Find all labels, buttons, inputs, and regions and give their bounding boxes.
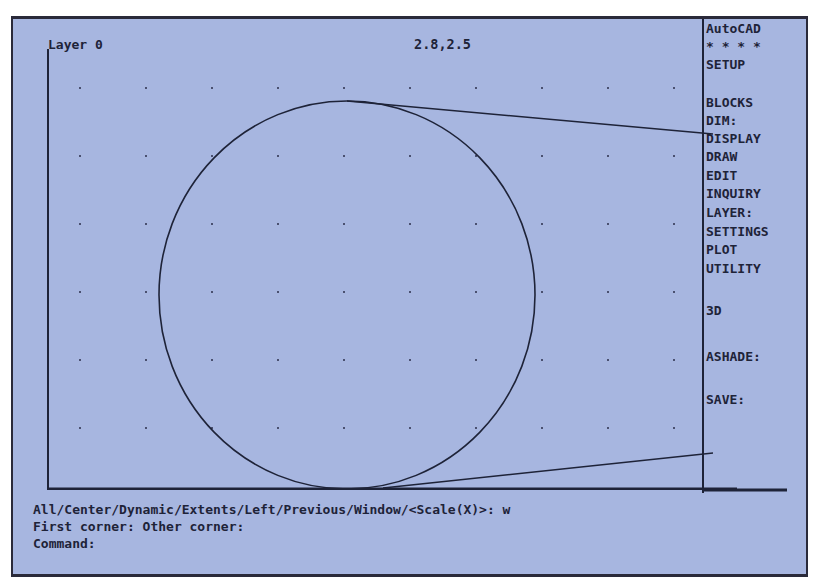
grid-dot xyxy=(277,223,279,225)
menu-item-separator: * * * * xyxy=(706,39,761,54)
grid-dot xyxy=(607,155,609,157)
grid-dot xyxy=(475,291,477,293)
menu-divider xyxy=(701,19,705,493)
grid-dot xyxy=(409,155,411,157)
menu-item-utility[interactable]: UTILITY xyxy=(706,261,761,276)
grid-dot xyxy=(211,291,213,293)
drawing-canvas[interactable] xyxy=(47,49,737,490)
grid-dot xyxy=(343,291,345,293)
grid-dot xyxy=(475,223,477,225)
grid-dot xyxy=(607,223,609,225)
grid-dot xyxy=(673,359,675,361)
grid-dot xyxy=(475,87,477,89)
grid-dot xyxy=(607,87,609,89)
autocad-screen: Layer 0 2.8,2.5 AutoCAD* * * *SETUPBLOCK… xyxy=(11,16,808,577)
grid-dot xyxy=(277,291,279,293)
menu-item-3d[interactable]: 3D xyxy=(706,303,722,318)
grid-dot xyxy=(541,291,543,293)
grid-dot xyxy=(475,359,477,361)
menu-item-display[interactable]: DISPLAY xyxy=(706,131,761,146)
grid-dot xyxy=(145,427,147,429)
grid-dot xyxy=(79,359,81,361)
drawing-area[interactable] xyxy=(47,49,702,490)
grid-dot xyxy=(409,87,411,89)
screen-menu: AutoCAD* * * *SETUPBLOCKSDIM:DISPLAYDRAW… xyxy=(703,19,806,490)
grid-dot xyxy=(475,427,477,429)
grid-dot xyxy=(79,223,81,225)
grid-dot xyxy=(607,291,609,293)
menu-bottom-border xyxy=(703,488,806,492)
grid-dot xyxy=(277,87,279,89)
grid-dot xyxy=(79,87,81,89)
grid-dot xyxy=(145,359,147,361)
grid-dot xyxy=(607,427,609,429)
grid-dot xyxy=(211,155,213,157)
grid-dot xyxy=(673,291,675,293)
menu-item-layer[interactable]: LAYER: xyxy=(706,205,753,220)
drawn-circle[interactable] xyxy=(159,101,535,489)
menu-item-draw[interactable]: DRAW xyxy=(706,149,737,164)
grid-dot xyxy=(409,359,411,361)
grid-dot xyxy=(673,155,675,157)
grid-dot xyxy=(343,359,345,361)
grid-dot xyxy=(343,155,345,157)
grid-dot xyxy=(145,291,147,293)
command-history-line-1: All/Center/Dynamic/Extents/Left/Previous… xyxy=(33,502,510,518)
menu-item-edit[interactable]: EDIT xyxy=(706,168,737,183)
menu-item-save[interactable]: SAVE: xyxy=(706,392,745,407)
grid-dots xyxy=(79,87,675,490)
grid-dot xyxy=(409,223,411,225)
grid-dot xyxy=(343,87,345,89)
menu-item-settings[interactable]: SETTINGS xyxy=(706,224,769,239)
grid-dot xyxy=(211,223,213,225)
grid-dot xyxy=(211,87,213,89)
grid-dot xyxy=(409,427,411,429)
grid-dot xyxy=(211,359,213,361)
grid-dot xyxy=(145,155,147,157)
grid-dot xyxy=(277,359,279,361)
grid-dot xyxy=(277,427,279,429)
grid-dot xyxy=(277,155,279,157)
grid-dot xyxy=(79,155,81,157)
grid-dot xyxy=(541,427,543,429)
command-history-line-2: First corner: Other corner: xyxy=(33,519,244,535)
grid-dot xyxy=(541,155,543,157)
command-prompt[interactable]: Command: xyxy=(33,536,96,552)
menu-item-plot[interactable]: PLOT xyxy=(706,242,737,257)
grid-dot xyxy=(79,427,81,429)
grid-dot xyxy=(673,223,675,225)
grid-dot xyxy=(541,359,543,361)
menu-item-inquiry[interactable]: INQUIRY xyxy=(706,186,761,201)
tangent-line-top[interactable] xyxy=(347,101,713,134)
grid-dot xyxy=(409,291,411,293)
grid-dot xyxy=(145,87,147,89)
tangent-line-bottom[interactable] xyxy=(383,453,713,488)
menu-item-dim[interactable]: DIM: xyxy=(706,113,737,128)
grid-dot xyxy=(673,427,675,429)
grid-dot xyxy=(343,223,345,225)
grid-dot xyxy=(541,223,543,225)
grid-dot xyxy=(607,359,609,361)
grid-dot xyxy=(343,427,345,429)
grid-dot xyxy=(541,87,543,89)
menu-item-blocks[interactable]: BLOCKS xyxy=(706,95,753,110)
menu-item-autocad[interactable]: AutoCAD xyxy=(706,21,761,36)
grid-dot xyxy=(79,291,81,293)
grid-dot xyxy=(145,223,147,225)
menu-item-setup[interactable]: SETUP xyxy=(706,57,745,72)
grid-dot xyxy=(673,87,675,89)
menu-item-ashade[interactable]: ASHADE: xyxy=(706,349,761,364)
